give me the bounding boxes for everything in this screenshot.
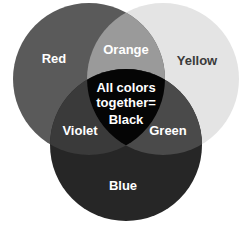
label-all-colors-line1: All colors xyxy=(96,80,156,95)
label-yellow: Yellow xyxy=(177,53,217,68)
label-violet: Violet xyxy=(62,123,97,138)
label-blue: Blue xyxy=(109,178,137,193)
label-all-colors-line2: together= xyxy=(96,95,156,110)
label-orange: Orange xyxy=(103,42,149,57)
venn-diagram: Red Yellow Orange All colors together= B… xyxy=(0,0,252,238)
label-green: Green xyxy=(149,123,187,138)
label-all-colors: All colors together= xyxy=(96,80,156,110)
label-red: Red xyxy=(42,51,67,66)
label-black: Black xyxy=(109,112,144,127)
